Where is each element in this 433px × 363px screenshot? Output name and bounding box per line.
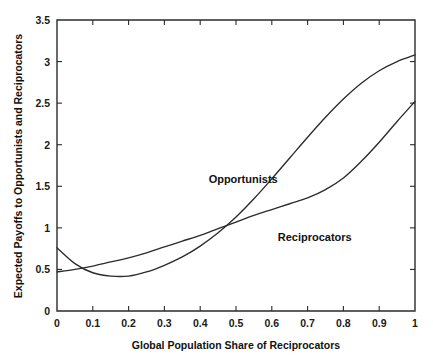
y-tick-label: 1: [44, 222, 50, 234]
x-tick-label: 0.3: [157, 317, 172, 329]
x-axis-ticks: [93, 20, 379, 311]
x-tick-label: 0: [54, 317, 60, 329]
data-curves: [57, 55, 415, 277]
series-curve-reciprocators: [57, 101, 415, 271]
y-tick-label: 2.5: [35, 97, 50, 109]
x-axis-title: Global Population Share of Reciprocators: [132, 339, 340, 351]
y-axis-title: Expected Payoffs to Opportunists and Rec…: [12, 34, 24, 298]
x-tick-label: 0.9: [372, 317, 387, 329]
x-axis-tick-labels: 00.10.20.30.40.50.60.70.80.91: [54, 317, 418, 329]
x-tick-label: 0.1: [85, 317, 100, 329]
chart-figure: 00.10.20.30.40.50.60.70.80.91 00.511.522…: [0, 0, 433, 363]
x-tick-label: 0.4: [193, 317, 208, 329]
plot-frame: [57, 20, 415, 311]
x-tick-label: 0.5: [229, 317, 244, 329]
line-chart: 00.10.20.30.40.50.60.70.80.91 00.511.522…: [0, 0, 433, 363]
x-tick-label: 0.7: [300, 317, 315, 329]
y-tick-label: 3: [44, 56, 50, 68]
series-curve-opportunists: [57, 55, 415, 277]
series-annotations: OpportunistsReciprocators: [209, 173, 352, 243]
series-label-opportunists: Opportunists: [209, 173, 278, 185]
y-tick-label: 0: [44, 305, 50, 317]
x-tick-label: 1: [412, 317, 418, 329]
x-tick-label: 0.6: [264, 317, 279, 329]
y-axis-ticks: [57, 62, 415, 270]
y-tick-label: 0.5: [35, 263, 50, 275]
x-tick-label: 0.2: [121, 317, 136, 329]
series-label-reciprocators: Reciprocators: [278, 231, 352, 243]
x-tick-label: 0.8: [336, 317, 351, 329]
y-tick-label: 3.5: [35, 14, 50, 26]
y-tick-label: 2: [44, 139, 50, 151]
y-axis-tick-labels: 00.511.522.533.5: [35, 14, 50, 317]
y-tick-label: 1.5: [35, 180, 50, 192]
